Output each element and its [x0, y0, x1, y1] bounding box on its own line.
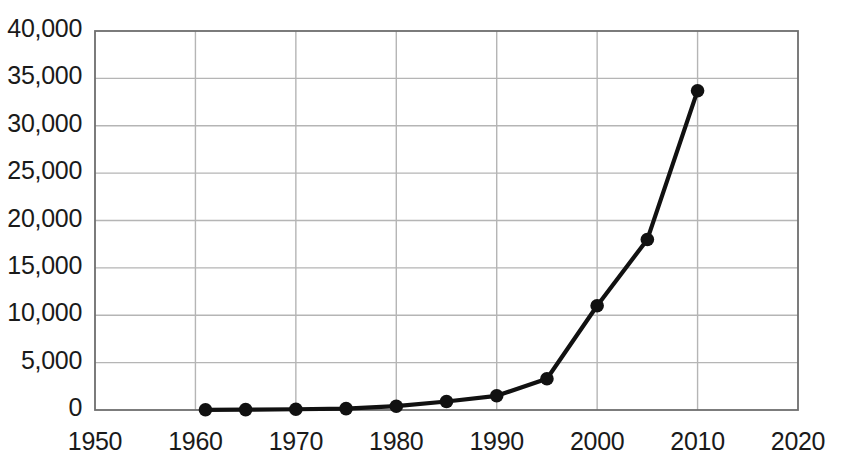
- data-point-marker: [289, 402, 303, 416]
- y-axis-tick-label: 35,000: [7, 61, 82, 90]
- data-markers: [199, 84, 705, 417]
- y-axis-tick-label: 0: [68, 393, 82, 422]
- data-point-marker: [540, 372, 554, 386]
- y-axis-tick-label: 5,000: [21, 346, 82, 375]
- x-axis-tick-label: 2020: [738, 427, 842, 456]
- line-chart-plot: [0, 0, 842, 471]
- data-point-marker: [239, 403, 253, 417]
- y-axis-tick-label: 40,000: [7, 14, 82, 43]
- y-axis-tick-label: 20,000: [7, 204, 82, 233]
- data-point-marker: [641, 233, 655, 247]
- y-axis-tick-label: 25,000: [7, 156, 82, 185]
- y-axis-tick-label: 15,000: [7, 251, 82, 280]
- y-axis-tick-label: 10,000: [7, 298, 82, 327]
- data-point-marker: [440, 395, 454, 409]
- data-point-marker: [389, 399, 403, 413]
- data-point-marker: [199, 403, 213, 417]
- y-axis-tick-label: 30,000: [7, 109, 82, 138]
- data-point-marker: [691, 84, 705, 98]
- data-point-marker: [490, 389, 504, 403]
- data-point-marker: [590, 299, 604, 313]
- data-point-marker: [339, 402, 353, 416]
- chart-container: 05,00010,00015,00020,00025,00030,00035,0…: [0, 0, 842, 471]
